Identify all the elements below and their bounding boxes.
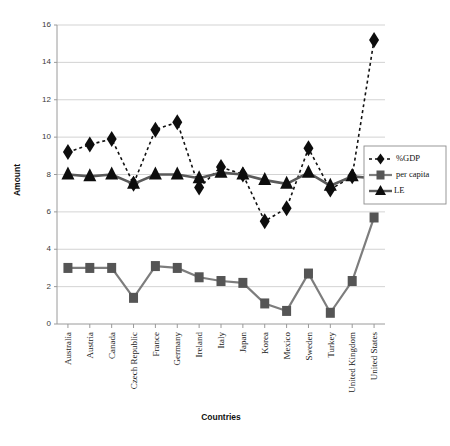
data-point-square[interactable] — [326, 308, 335, 318]
series--gdp — [63, 32, 379, 229]
data-point-square[interactable] — [63, 263, 72, 273]
data-point-square[interactable] — [107, 263, 116, 273]
y-tick-label: 0 — [47, 319, 52, 328]
series-le — [61, 165, 380, 191]
data-point-diamond[interactable] — [282, 200, 292, 216]
data-point-triangle[interactable] — [302, 165, 315, 178]
legend-label-le: LE — [394, 185, 404, 195]
data-point-square[interactable] — [217, 276, 226, 286]
x-tick-label-united-kingdom: United Kingdom — [347, 332, 357, 393]
x-tick-label-mexico: Mexico — [282, 332, 292, 360]
legend-item-per-capita[interactable]: per capita — [369, 169, 429, 179]
x-tick-label-japan: Japan — [238, 332, 248, 353]
x-tick-label-united-states: United States — [369, 332, 379, 381]
legend: %GDP per capita LE — [364, 146, 446, 204]
x-tick-label-australia: Australia — [63, 332, 73, 365]
y-tick-label: 16 — [42, 20, 51, 29]
x-tick-label-austria: Austria — [85, 332, 95, 359]
data-point-triangle[interactable] — [105, 167, 118, 180]
x-tick-label-ireland: Ireland — [194, 332, 204, 358]
data-point-triangle[interactable] — [171, 167, 184, 180]
data-point-square[interactable] — [304, 269, 313, 279]
y-tick-label: 10 — [42, 132, 51, 141]
x-tick-label-turkey: Turkey — [326, 332, 336, 358]
x-tick-label-france: France — [151, 332, 161, 357]
chart-container: 0246810121416 AustraliaAustriaCanadaCzec… — [0, 0, 450, 446]
data-point-square[interactable] — [370, 212, 379, 222]
x-axis-ticks-group — [68, 324, 374, 328]
x-axis-labels-group: AustraliaAustriaCanadaCzech RepublicFran… — [63, 332, 379, 393]
legend-label-per-capita: per capita — [396, 169, 429, 179]
gridlines-group — [57, 25, 385, 287]
x-tick-label-czech-republic: Czech Republic — [129, 332, 139, 389]
data-point-diamond[interactable] — [85, 137, 95, 153]
data-point-triangle[interactable] — [149, 167, 162, 180]
x-tick-label-sweden: Sweden — [304, 332, 314, 361]
data-point-triangle[interactable] — [61, 167, 74, 180]
line-chart: 0246810121416 AustraliaAustriaCanadaCzec… — [0, 0, 450, 446]
y-axis-ticks-group: 0246810121416 — [42, 20, 57, 328]
x-tick-label-germany: Germany — [172, 332, 182, 366]
data-point-square[interactable] — [195, 272, 204, 282]
y-tick-label: 12 — [42, 95, 51, 104]
data-point-square[interactable] — [151, 261, 160, 271]
data-point-diamond[interactable] — [150, 122, 160, 138]
data-point-square[interactable] — [282, 306, 291, 316]
square-icon — [377, 171, 385, 180]
series-line — [68, 40, 374, 221]
data-point-diamond[interactable] — [63, 144, 73, 160]
legend-label-gdp: %GDP — [396, 153, 420, 163]
series-per-capita — [63, 212, 378, 317]
y-tick-label: 2 — [47, 282, 52, 291]
y-axis-title: Amount — [12, 164, 22, 196]
x-axis-title: Countries — [201, 412, 241, 422]
data-point-square[interactable] — [173, 263, 182, 273]
data-point-diamond[interactable] — [369, 32, 379, 48]
data-point-square[interactable] — [85, 263, 94, 273]
data-point-diamond[interactable] — [107, 131, 117, 147]
data-point-diamond[interactable] — [172, 114, 182, 130]
y-tick-label: 6 — [47, 207, 52, 216]
y-tick-label: 4 — [47, 244, 52, 253]
data-point-square[interactable] — [238, 278, 247, 288]
y-tick-label: 14 — [42, 57, 51, 66]
x-tick-label-canada: Canada — [107, 332, 117, 359]
data-point-square[interactable] — [260, 298, 269, 308]
x-tick-label-korea: Korea — [260, 332, 270, 354]
y-tick-label: 8 — [47, 170, 52, 179]
x-tick-label-italy: Italy — [216, 332, 226, 349]
data-point-square[interactable] — [129, 293, 138, 303]
data-point-square[interactable] — [348, 276, 357, 286]
